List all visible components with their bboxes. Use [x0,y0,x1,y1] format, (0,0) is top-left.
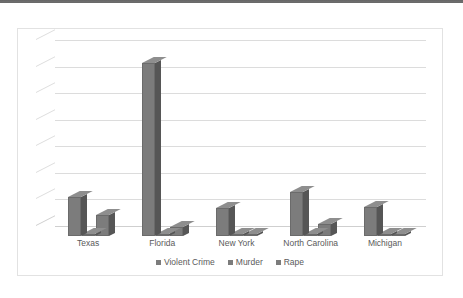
bar-front-face [142,63,155,236]
legend-item[interactable]: Violent Crime [156,257,215,268]
category-label: North Carolina [274,237,348,249]
legend-label: Violent Crime [164,257,215,268]
legend-item[interactable]: Murder [228,257,263,268]
bar-group [290,36,331,236]
bar-murder [304,234,317,236]
category-label: Michigan [348,237,422,249]
legend-swatch-icon [156,260,161,265]
plot-area [36,36,426,236]
category-label: Texas [51,237,125,249]
category-axis: TexasFloridaNew YorkNorth CarolinaMichig… [36,237,426,255]
bar-group [68,36,109,236]
legend-swatch-icon [228,260,233,265]
gridline-depth-riser [36,82,55,103]
gridline-depth-riser [36,109,55,130]
gridline-depth-riser [36,189,55,210]
bar-side-face [109,212,115,236]
bar-violent-crime [364,207,377,236]
bar-side-face [377,204,383,236]
bar-front-face [364,207,377,236]
category-label: Florida [125,237,199,249]
chart-legend: Violent CrimeMurderRape [18,257,442,268]
legend-item[interactable]: Rape [276,257,304,268]
chart-container: TexasFloridaNew YorkNorth CarolinaMichig… [17,28,443,276]
bar-front-face [68,197,81,236]
bar-group [364,36,405,236]
page-top-strip-hairline [0,2,463,3]
bar-violent-crime [142,63,155,236]
bar-side-face [81,194,87,236]
bar-group [216,36,257,236]
bar-side-face [303,189,309,236]
bar-front-face [304,234,317,236]
legend-label: Rape [284,257,304,268]
category-label: New York [199,237,273,249]
bar-group [142,36,183,236]
legend-swatch-icon [276,260,281,265]
bar-side-face [229,205,235,236]
bar-violent-crime [68,197,81,236]
legend-label: Murder [236,257,263,268]
gridline-depth-riser [36,162,55,183]
gridline-depth-riser [36,56,55,77]
bars-layer [55,36,426,236]
bar-violent-crime [216,208,229,236]
bar-side-face [155,60,161,236]
bar-front-face [216,208,229,236]
gridline-depth-riser [36,215,55,236]
gridline-depth-riser [36,29,55,50]
bar-front-face [290,192,303,236]
bar-violent-crime [290,192,303,236]
gridline-depth-riser [36,136,55,157]
